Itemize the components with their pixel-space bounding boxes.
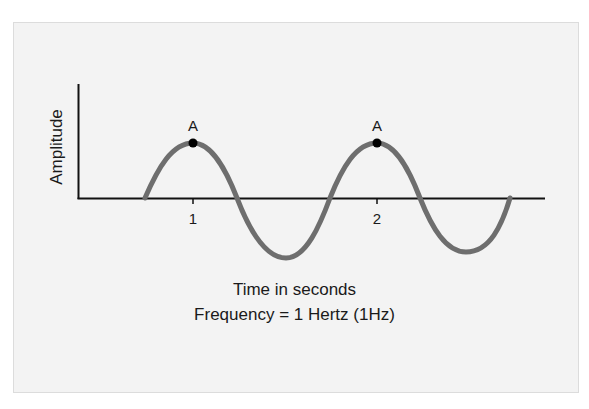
peak-label-2: A: [372, 117, 382, 134]
wave-diagram: [0, 0, 589, 409]
y-axis-label: Amplitude: [47, 109, 67, 185]
peak-marker-1: [189, 139, 198, 148]
tick-label-1: 1: [189, 210, 197, 227]
peak-label-1: A: [188, 117, 198, 134]
peak-marker-2: [373, 139, 382, 148]
sine-wave: [145, 143, 510, 258]
frequency-caption: Frequency = 1 Hertz (1Hz): [0, 305, 589, 325]
tick-label-2: 2: [373, 210, 381, 227]
x-axis-label: Time in seconds: [0, 280, 589, 300]
